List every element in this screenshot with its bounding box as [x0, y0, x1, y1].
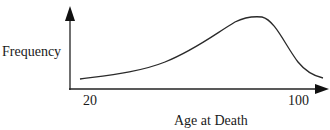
age-at-death-chart: Frequency 20 100 Age at Death	[0, 0, 330, 130]
y-axis-arrow-icon	[65, 6, 75, 21]
distribution-curve	[80, 17, 323, 79]
x-tick-20: 20	[83, 93, 97, 109]
x-tick-100: 100	[288, 93, 309, 109]
x-axis-arrow-icon	[315, 84, 329, 94]
y-axis-label: Frequency	[2, 44, 61, 60]
x-axis-label: Age at Death	[174, 113, 248, 129]
chart-canvas	[0, 0, 330, 130]
